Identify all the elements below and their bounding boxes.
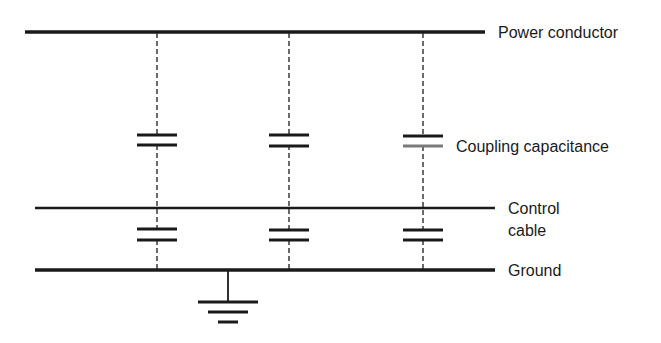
control-cable-label-line2: cable [508, 221, 546, 240]
capacitor-icon [403, 136, 443, 146]
capacitor-icon [269, 230, 309, 240]
coupling-diagram [0, 0, 661, 343]
capacitor-icon [269, 135, 309, 146]
coupling-branch-3 [403, 33, 443, 270]
control-cable-label-line1: Control [508, 199, 560, 218]
capacitor-icon [137, 135, 177, 145]
ground-label: Ground [508, 261, 561, 280]
coupling-branch-2 [269, 33, 309, 270]
ground-icon [198, 271, 258, 322]
coupling-branch-1 [137, 33, 177, 270]
capacitor-icon [137, 229, 177, 240]
coupling-capacitance-label: Coupling capacitance [456, 137, 609, 156]
power-conductor-label: Power conductor [498, 23, 618, 42]
capacitor-icon [403, 230, 443, 240]
